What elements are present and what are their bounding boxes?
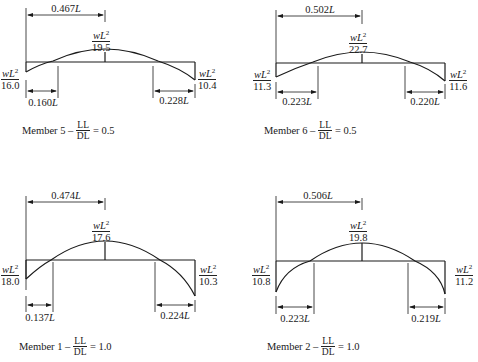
right-inflection-label: 0.224L: [160, 310, 189, 321]
max-positive-moment: wL217.6: [92, 218, 110, 243]
right-inflection-label: 0.228L: [159, 95, 188, 106]
right-end-moment: wL211.2: [455, 262, 473, 287]
max-positive-distance-label: 0.467L: [51, 3, 80, 14]
right-inflection-label: 0.219L: [411, 313, 440, 324]
max-positive-distance-label: 0.506L: [303, 190, 332, 201]
right-end-moment: wL210.4: [198, 66, 216, 91]
left-inflection-label: 0.160L: [28, 97, 57, 108]
moment-diagrams-drawing: [0, 0, 478, 362]
max-positive-distance-label: 0.474L: [51, 190, 80, 201]
left-end-moment: wL216.0: [1, 66, 19, 91]
caption: Member 6 –LLDL= 0.5: [264, 120, 357, 141]
left-inflection-label: 0.223L: [282, 96, 311, 107]
caption: Member 5 –LLDL= 0.5: [22, 120, 115, 141]
caption: Member 2 –LLDL= 1.0: [267, 336, 360, 357]
left-end-moment: wL218.0: [1, 262, 19, 287]
max-positive-moment: wL219.8: [349, 218, 367, 243]
left-inflection-label: 0.137L: [25, 312, 54, 323]
left-inflection-label: 0.223L: [280, 313, 309, 324]
right-inflection-label: 0.220L: [410, 96, 439, 107]
max-positive-moment: wL219.5: [92, 28, 110, 53]
moment-curve: [26, 49, 195, 80]
right-end-moment: wL211.6: [449, 67, 467, 92]
panel-member-2: [276, 196, 445, 314]
caption: Member 1 –LLDL= 1.0: [19, 336, 112, 357]
arrowheads: [27, 13, 444, 309]
max-positive-moment: wL222.7: [349, 30, 367, 55]
panel-member-1: [26, 196, 195, 312]
left-end-moment: wL210.8: [252, 262, 270, 287]
max-positive-distance-label: 0.502L: [305, 4, 334, 15]
left-end-moment: wL211.3: [253, 67, 271, 92]
panel-member-5: [26, 8, 195, 98]
right-end-moment: wL210.3: [199, 262, 217, 287]
